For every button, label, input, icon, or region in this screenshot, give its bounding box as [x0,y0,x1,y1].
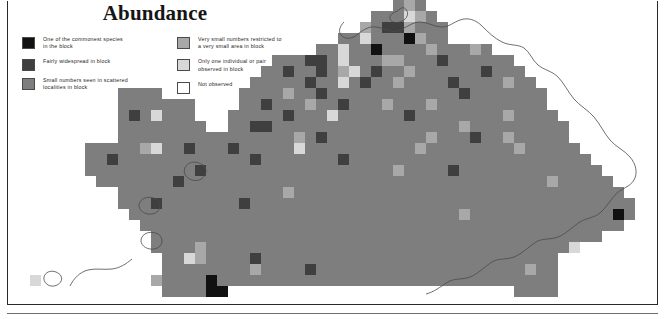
grid-cell [382,44,393,55]
grid-cell [338,231,349,242]
grid-cell [437,176,448,187]
grid-cell [371,264,382,275]
grid-cell [96,143,107,154]
grid-cell [195,165,206,176]
grid-cell [316,165,327,176]
grid-cell [437,242,448,253]
grid-cell [547,264,558,275]
grid-cell [514,264,525,275]
grid-cell [459,132,470,143]
grid-cell [404,77,415,88]
grid-cell [470,187,481,198]
grid-cell [580,220,591,231]
grid-cell [547,187,558,198]
grid-cell [415,77,426,88]
grid-cell [195,286,206,297]
legend-column-right: Very small numbers restricted toa very s… [177,36,317,91]
grid-cell [382,209,393,220]
grid-cell [503,132,514,143]
grid-cell [294,209,305,220]
grid-cell [173,264,184,275]
grid-cell [404,275,415,286]
grid-cell [437,77,448,88]
grid-cell [536,242,547,253]
grid-cell [492,198,503,209]
grid-cell [393,165,404,176]
grid-cell [239,143,250,154]
grid-cell [327,132,338,143]
grid-cell [162,187,173,198]
grid-cell [360,242,371,253]
grid-cell [580,154,591,165]
grid-cell [569,187,580,198]
grid-cell [426,55,437,66]
grid-cell [459,253,470,264]
legend-item-small-numbers: Small numbers seen in scatteredlocalitie… [22,77,162,91]
grid-cell [239,176,250,187]
grid-cell [514,132,525,143]
grid-cell [338,165,349,176]
grid-cell [184,176,195,187]
grid-cell [195,253,206,264]
grid-cell [239,231,250,242]
grid-cell [437,66,448,77]
grid-cell [591,231,602,242]
grid-cell [481,154,492,165]
grid-cell [492,88,503,99]
grid-cell [393,220,404,231]
grid-cell [360,154,371,165]
grid-cell [536,187,547,198]
grid-cell [547,198,558,209]
grid-cell [404,176,415,187]
grid-cell [393,44,404,55]
grid-cell [470,275,481,286]
grid-cell [283,99,294,110]
grid-cell [327,275,338,286]
grid-cell [536,165,547,176]
grid-cell [415,132,426,143]
grid-cell [426,99,437,110]
grid-cell [448,132,459,143]
grid-cell [217,220,228,231]
grid-cell [459,231,470,242]
grid-cell [459,264,470,275]
grid-cell [371,220,382,231]
grid-cell [382,275,393,286]
grid-cell [459,121,470,132]
grid-cell [316,242,327,253]
grid-cell [349,220,360,231]
grid-cell [371,198,382,209]
grid-cell [492,242,503,253]
grid-cell [217,209,228,220]
grid-cell [525,275,536,286]
grid-cell [470,121,481,132]
grid-cell [217,165,228,176]
grid-cell [305,154,316,165]
grid-cell [360,55,371,66]
grid-cell [305,209,316,220]
legend-label-one-individual: Only one individual or pairobserved in b… [198,58,317,72]
grid-cell [360,198,371,209]
grid-cell [514,231,525,242]
grid-cell [85,143,96,154]
grid-cell [206,209,217,220]
grid-cell [250,132,261,143]
grid-cell [503,55,514,66]
grid-cell [250,110,261,121]
grid-cell [305,253,316,264]
grid-cell [140,99,151,110]
grid-cell [492,66,503,77]
grid-cell [481,253,492,264]
grid-cell [239,209,250,220]
grid-cell [371,242,382,253]
grid-cell [327,55,338,66]
grid-cell [492,220,503,231]
grid-cell [426,231,437,242]
grid-cell [448,275,459,286]
grid-cell [448,165,459,176]
grid-cell [129,132,140,143]
grid-cell [349,132,360,143]
grid-cell [261,187,272,198]
grid-cell [250,231,261,242]
grid-cell [558,121,569,132]
